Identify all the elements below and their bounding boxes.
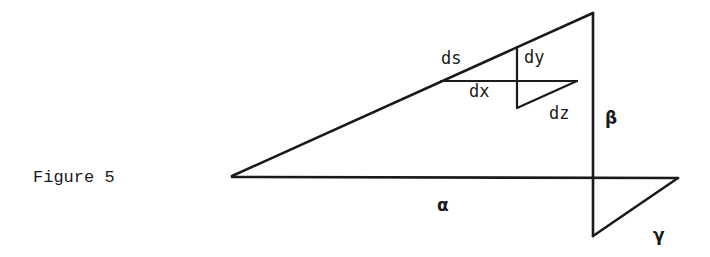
label-beta: β bbox=[605, 108, 617, 128]
alpha-baseline bbox=[232, 177, 678, 178]
figure-5-diagram: ds dy dx dz β α γ Figure 5 bbox=[0, 0, 710, 257]
gamma-diagonal bbox=[593, 178, 678, 236]
large-hypotenuse bbox=[232, 13, 593, 176]
label-dx: dx bbox=[469, 81, 489, 101]
figure-caption: Figure 5 bbox=[33, 168, 115, 187]
label-gamma: γ bbox=[653, 225, 665, 245]
label-alpha: α bbox=[437, 195, 449, 215]
label-dy: dy bbox=[524, 47, 544, 67]
label-dz: dz bbox=[549, 103, 569, 123]
label-ds: ds bbox=[441, 48, 461, 68]
